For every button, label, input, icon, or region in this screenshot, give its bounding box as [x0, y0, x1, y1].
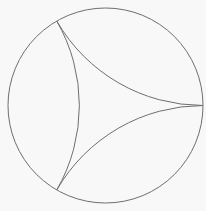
- poincare-disk-diagram: [0, 0, 206, 211]
- boundary-circle: [8, 8, 203, 203]
- geodesic-top-bottom: [57, 21, 80, 190]
- diagram-canvas: [0, 0, 206, 211]
